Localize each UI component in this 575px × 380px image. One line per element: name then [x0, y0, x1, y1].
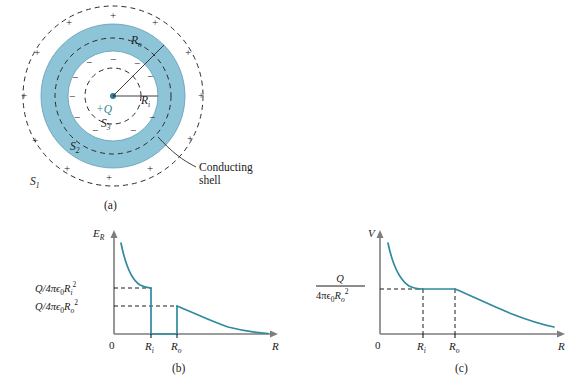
charge-sign-negative: −	[147, 70, 153, 82]
charge-sign-negative: −	[69, 90, 75, 102]
curve-inside-cavity	[388, 243, 423, 289]
charge-sign-negative: −	[74, 111, 80, 123]
ylabel-inner-field: Q/4πϵ0Ri2	[35, 280, 77, 297]
x-axis-label: R	[271, 340, 279, 352]
efield-chart-svg: ER R 0 Ri Ro Q/4πϵ0Ri2 Q/4πϵ0Ro2 (b)	[14, 222, 286, 380]
charge-sign-positive: +	[32, 134, 38, 146]
charge-sign-positive: +	[106, 171, 112, 183]
caption-panel-b: (b)	[172, 362, 186, 375]
xtick-label-Ro: Ro	[448, 340, 460, 355]
charge-sign-positive: +	[66, 16, 72, 28]
panel-a-shell-diagram: + + + + + + + + + + + + − − − − − − − − …	[0, 0, 290, 222]
y-axis-label: V	[368, 227, 376, 239]
ylabel-outer-field: Q/4πϵ0Ro2	[35, 298, 78, 315]
x-axis-label: R	[557, 340, 565, 352]
charge-sign-negative: −	[134, 57, 140, 69]
xtick-label-Ri: Ri	[416, 340, 426, 355]
panel-c-potential-graph: V R 0 Ri Ro Q 4πϵ0Ro2 (c)	[292, 222, 575, 380]
label-center-charge: +Q	[96, 103, 113, 115]
charge-sign-positive: +	[198, 89, 204, 101]
charge-sign-positive: +	[110, 9, 116, 21]
panel-b-efield-graph: ER R 0 Ri Ro Q/4πϵ0Ri2 Q/4πϵ0Ro2 (b)	[14, 222, 286, 380]
charge-sign-positive: +	[64, 162, 70, 174]
ylabel-fraction-numerator: Q	[336, 273, 344, 284]
label-surface-s1: S1	[30, 175, 40, 190]
caption-panel-a: (a)	[104, 199, 117, 212]
charge-sign-positive: +	[152, 16, 158, 28]
label-conducting-shell-line2: shell	[199, 174, 221, 186]
charge-sign-positive: +	[185, 46, 191, 58]
charge-sign-positive: +	[34, 46, 40, 58]
label-conducting-shell-line1: Conducting	[199, 161, 253, 174]
charge-sign-positive: +	[187, 132, 193, 144]
x-axis-arrow	[557, 331, 565, 338]
origin-label: 0	[375, 339, 381, 351]
charge-sign-negative: −	[149, 111, 155, 123]
ylabel-fraction-denominator: 4πϵ0Ro2	[316, 287, 349, 304]
shell-diagram-svg: + + + + + + + + + + + + − − − − − − − − …	[0, 0, 290, 222]
charge-sign-positive: +	[147, 162, 153, 174]
y-axis-arrow	[377, 230, 384, 238]
origin-label: 0	[109, 339, 115, 351]
x-axis-arrow	[270, 331, 278, 338]
charge-sign-negative: −	[86, 56, 92, 68]
curve-inside-cavity	[121, 243, 151, 288]
y-axis-label: ER	[92, 227, 105, 242]
charge-sign-negative: −	[110, 53, 116, 65]
charge-sign-negative: −	[92, 124, 98, 136]
charge-sign-negative: −	[72, 71, 78, 83]
y-axis-arrow	[111, 230, 118, 238]
caption-panel-c: (c)	[455, 362, 468, 375]
charge-sign-negative: −	[130, 124, 136, 136]
curve-outside-shell	[177, 306, 268, 334]
xtick-label-Ri: Ri	[144, 340, 154, 355]
curve-outside-shell	[455, 289, 554, 327]
charge-sign-positive: +	[21, 89, 27, 101]
potential-chart-svg: V R 0 Ri Ro Q 4πϵ0Ro2 (c)	[292, 222, 575, 380]
xtick-label-Ro: Ro	[170, 340, 182, 355]
